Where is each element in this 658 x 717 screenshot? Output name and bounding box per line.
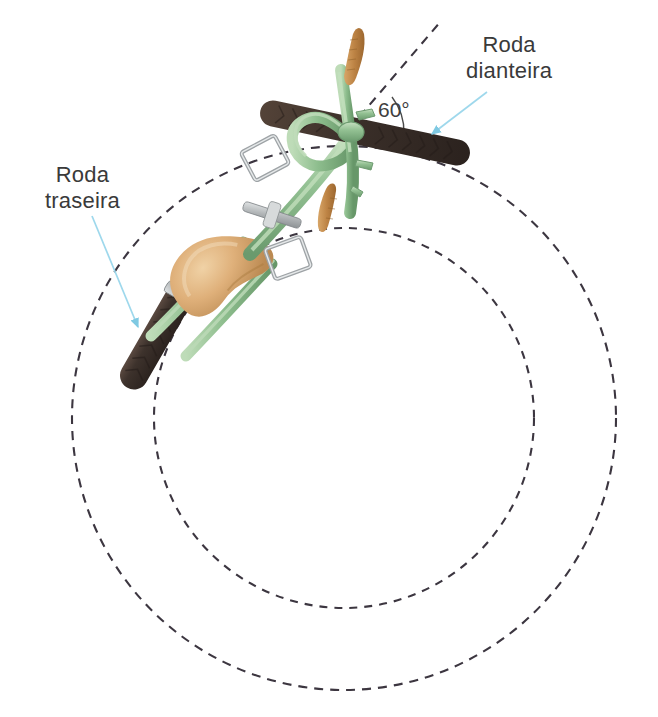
bicycle-top-view <box>112 28 472 396</box>
front-wheel-leader <box>432 92 487 134</box>
rear-wheel-leader <box>92 216 138 327</box>
rear-wheel-label: Roda traseira <box>45 162 120 214</box>
brake-lever-upper <box>356 109 375 120</box>
grip-lower <box>318 184 336 232</box>
bicycle-turn-diagram: Roda dianteira Roda traseira 60° <box>0 0 658 717</box>
grip-upper <box>344 28 365 85</box>
stem-clamp <box>338 122 364 142</box>
turning-circles <box>72 146 616 690</box>
steering-angle-label: 60° <box>378 98 410 122</box>
front-wheel-label: Roda dianteira <box>466 32 552 84</box>
diagram-canvas <box>0 0 658 717</box>
